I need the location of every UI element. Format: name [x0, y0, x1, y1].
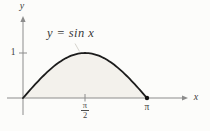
fraction-denominator-2: 2: [81, 112, 89, 119]
y-tick-label-1: 1: [11, 48, 16, 58]
curve-equation-label: y = sin x: [47, 27, 94, 40]
y-axis-label: y: [20, 1, 24, 11]
x-axis-label: x: [194, 92, 198, 102]
endpoint-dot: [145, 96, 149, 100]
sine-area-figure: y = sin x y x 1 π 2 π: [0, 0, 210, 131]
annotation-leader-line: [75, 44, 80, 52]
plot-canvas: [0, 0, 210, 131]
x-axis-arrowhead: [182, 95, 188, 100]
area-under-curve: [23, 53, 147, 98]
fraction-numerator-pi: π: [81, 102, 89, 109]
y-axis-arrowhead: [20, 16, 25, 22]
x-tick-label-pi: π: [145, 103, 150, 113]
x-tick-label-half-pi: π 2: [81, 102, 89, 119]
